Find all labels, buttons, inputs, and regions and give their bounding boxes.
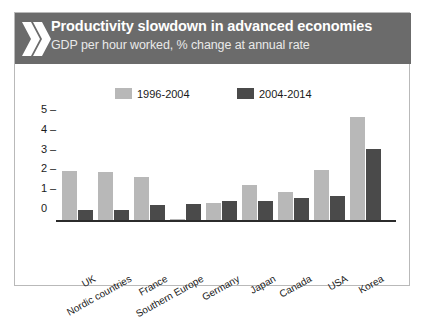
bar <box>330 196 345 220</box>
bar-group <box>98 113 129 220</box>
y-axis-tick: 3– <box>18 143 56 155</box>
bar <box>222 201 237 220</box>
y-axis-tick-mark: – <box>50 103 56 115</box>
bar <box>366 149 381 220</box>
x-axis-label: Nordic countries <box>65 273 134 318</box>
y-axis-tick: 0 <box>18 202 56 214</box>
y-axis-tick-label: 1 <box>41 182 47 194</box>
x-axis-label: Germany <box>200 273 241 303</box>
legend-item-0: 1996-2004 <box>115 84 190 98</box>
bar <box>150 205 165 220</box>
legend-label-1: 2004-2014 <box>259 88 312 100</box>
bar <box>78 210 93 220</box>
chart-title: Productivity slowdown in advanced econom… <box>51 18 372 34</box>
y-axis-tick-label: 2 <box>41 162 47 174</box>
bar-group <box>242 113 273 220</box>
chart-legend: 1996-2004 2004-2014 <box>15 84 411 100</box>
y-axis-tick-mark: – <box>50 162 56 174</box>
y-axis-tick-label: 5 <box>41 103 47 115</box>
legend-swatch-1 <box>237 88 254 99</box>
chart-body: 1996-2004 2004-2014 01–2–3–4–5–UKNordic … <box>15 64 411 287</box>
bar <box>314 170 329 220</box>
y-axis-tick-mark: – <box>50 182 56 194</box>
legend-label-0: 1996-2004 <box>137 88 190 100</box>
bar-group <box>62 113 93 220</box>
bar <box>186 204 201 220</box>
y-axis-tick: 5– <box>18 103 56 115</box>
legend-item-1: 2004-2014 <box>237 84 312 98</box>
x-axis-label: Japan <box>248 273 277 296</box>
bar <box>278 192 293 220</box>
y-axis-tick-mark: – <box>50 143 56 155</box>
bar-group <box>350 113 381 220</box>
plot-area: 01–2–3–4–5–UKNordic countriesFranceSouth… <box>56 113 392 220</box>
bar <box>62 171 77 220</box>
y-axis-tick-mark: – <box>50 123 56 135</box>
chart-header: Productivity slowdown in advanced econom… <box>15 13 411 64</box>
x-axis-label: UK <box>80 273 97 289</box>
bar <box>134 177 149 220</box>
bar <box>206 203 221 220</box>
bar <box>114 210 129 220</box>
bar-group <box>206 113 237 220</box>
y-axis-tick: 1– <box>18 182 56 194</box>
x-axis-line <box>56 220 396 222</box>
bar <box>294 198 309 220</box>
y-axis-tick-label: 3 <box>41 143 47 155</box>
bar-group <box>314 113 345 220</box>
bar-group <box>134 113 165 220</box>
bar <box>258 201 273 220</box>
chart-subtitle: GDP per hour worked, % change at annual … <box>51 38 310 52</box>
y-axis-tick-label: 4 <box>41 123 47 135</box>
y-axis-tick: 2– <box>18 162 56 174</box>
y-axis-tick: 4– <box>18 123 56 135</box>
bar-group <box>170 113 201 220</box>
y-axis-tick-label: 0 <box>41 202 47 214</box>
legend-swatch-0 <box>115 88 132 99</box>
bar <box>350 117 365 220</box>
chart-panel: Productivity slowdown in advanced econom… <box>14 12 410 286</box>
bar-group <box>278 113 309 220</box>
x-axis-label: Canada <box>277 273 313 300</box>
bar <box>98 172 113 220</box>
double-chevron-icon <box>21 19 51 59</box>
x-axis-label: USA <box>326 273 349 293</box>
bar <box>242 185 257 220</box>
x-axis-label: Korea <box>357 273 386 296</box>
